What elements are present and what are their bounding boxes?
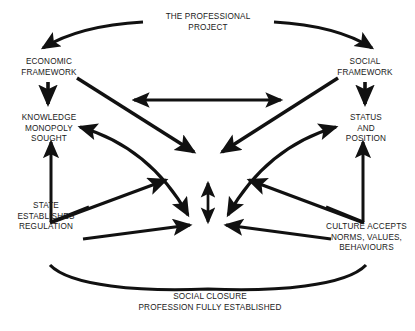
node-economic-framework: ECONOMIC FRAMEWORK (2, 57, 96, 78)
line-social-closure-bracket (50, 265, 366, 290)
arrow-layer (0, 0, 415, 331)
arrow-project-to-economic (43, 22, 143, 48)
node-professional-project: THE PROFESSIONAL PROJECT (143, 12, 273, 33)
node-status-and-position: STATUS AND POSITION (320, 113, 412, 145)
node-state-establishes-regulation: STATE ESTABLISHES REGULATION (0, 201, 92, 233)
arrow-state-to-centre-base (83, 225, 190, 239)
node-knowledge-monopoly-sought: KNOWLEDGE MONOPOLY SOUGHT (2, 113, 96, 145)
arrow-culture-to-centre-mid (249, 180, 364, 223)
node-culture-accepts-norms: CULTURE ACCEPTS NORMS, VALUES, BEHAVIOUR… (318, 222, 415, 254)
diagram-canvas: THE PROFESSIONAL PROJECT ECONOMIC FRAMEW… (0, 0, 415, 331)
arrow-culture-to-centre-base (226, 225, 331, 239)
node-social-framework: SOCIAL FRAMEWORK (318, 57, 412, 78)
arrow-knowledge-centre-curve (80, 127, 188, 215)
arrow-project-to-social (274, 22, 372, 48)
node-social-closure: SOCIAL CLOSURE PROFESSION FULLY ESTABLIS… (110, 292, 310, 313)
